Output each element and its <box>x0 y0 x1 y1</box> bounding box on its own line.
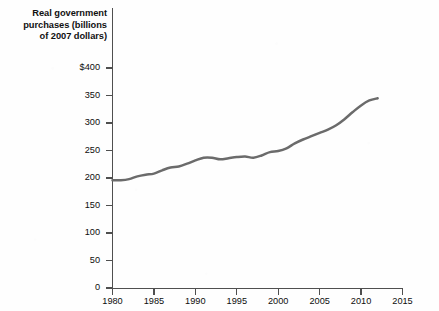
plot-area <box>0 0 439 311</box>
data-series-line <box>113 98 378 180</box>
chart-figure: Real government purchases (billions of 2… <box>0 0 439 311</box>
